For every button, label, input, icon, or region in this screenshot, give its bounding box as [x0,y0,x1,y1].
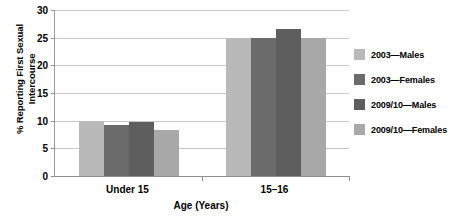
y-axis-tickmark [51,38,55,39]
legend-label: 2003—Males [371,50,424,60]
bar [129,122,154,176]
bar [104,125,129,176]
x-tick-label-under-15: Under 15 [68,184,188,195]
bar-group [79,10,179,176]
legend-swatch-icon [354,74,365,85]
x-tick-label-15-16: 15–16 [215,184,335,195]
bar [79,121,104,176]
plot-area [54,10,349,176]
x-axis-group-divider [202,176,203,181]
legend-item[interactable]: 2009/10—Females [354,117,466,142]
bar [301,38,326,176]
legend-label: 2003—Females [371,75,435,85]
y-axis-tickmark [51,121,55,122]
y-axis-tick-label: 30 [22,5,48,16]
legend-swatch-icon [354,99,365,110]
bar [276,29,301,176]
y-axis-tick-label: 15 [22,88,48,99]
y-axis-tickmark [51,148,55,149]
x-axis-end-tick [349,176,350,181]
bar [154,130,179,176]
legend-label: 2009/10—Males [371,100,436,110]
legend-item[interactable]: 2003—Females [354,67,466,92]
bar [251,38,276,176]
legend-swatch-icon [354,124,365,135]
legend-label: 2009/10—Females [371,125,447,135]
y-axis-tickmark [51,176,55,177]
y-axis-tick-label: 5 [22,143,48,154]
x-axis-title: Age (Years) [54,200,348,211]
bar-chart: % Reporting First Sexual Intercourse 051… [0,0,466,218]
y-axis-tick-label: 0 [22,171,48,182]
legend-swatch-icon [354,49,365,60]
bar-group [226,10,326,176]
y-axis-tickmark [51,93,55,94]
y-axis-tick-label: 20 [22,60,48,71]
y-axis-tickmark [51,65,55,66]
y-axis-tick-labels: 051015202530 [22,0,48,186]
y-axis-tick-label: 25 [22,32,48,43]
y-axis-tickmark [51,10,55,11]
y-axis-tick-label: 10 [22,115,48,126]
bar [226,38,251,176]
legend-item[interactable]: 2003—Males [354,42,466,67]
legend-item[interactable]: 2009/10—Males [354,92,466,117]
chart-legend: 2003—Males2003—Females2009/10—Males2009/… [354,42,466,142]
